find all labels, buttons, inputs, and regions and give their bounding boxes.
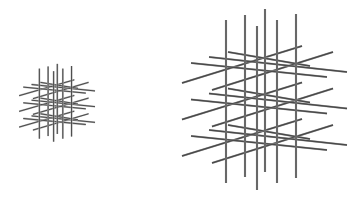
small-lattice bbox=[19, 64, 95, 142]
large-lattice bbox=[182, 9, 347, 190]
lattice-figure bbox=[0, 0, 357, 200]
